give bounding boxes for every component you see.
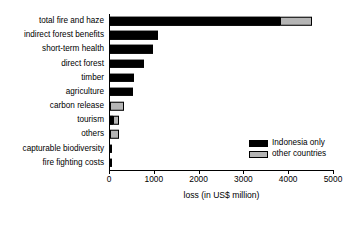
category-label: short-term health	[42, 45, 104, 53]
bar-group	[110, 144, 112, 153]
chart-row: indirect forest benefits	[0, 28, 361, 42]
category-label: capturable biodiversity	[23, 145, 104, 153]
bar-segment	[110, 102, 124, 111]
bar-segment	[110, 17, 280, 26]
chart-row: direct forest	[0, 57, 361, 71]
bar-group	[110, 17, 312, 26]
chart-row: short-term health	[0, 42, 361, 56]
x-tick-label: 4000	[279, 175, 298, 183]
legend-swatch-black	[249, 140, 268, 147]
legend-swatch-gray	[249, 151, 268, 158]
bar-segment	[110, 45, 153, 54]
bar-group	[110, 130, 119, 139]
bar-segment	[110, 31, 158, 40]
chart-row: tourism	[0, 113, 361, 127]
x-tick-label: 5000	[324, 175, 343, 183]
bar-segment	[110, 144, 112, 153]
x-tick-label: 3000	[234, 175, 253, 183]
legend-label: Indonesia only	[272, 139, 325, 147]
category-label: direct forest	[61, 59, 104, 67]
chart-row: timber	[0, 71, 361, 85]
bar-group	[110, 31, 158, 40]
bar-segment	[110, 88, 133, 97]
chart-row: total fire and haze	[0, 14, 361, 28]
bar-group	[110, 45, 153, 54]
bar-segment	[110, 130, 119, 139]
legend-label: other countries	[272, 150, 326, 158]
x-tick-label: 2000	[189, 175, 208, 183]
legend-item: other countries	[249, 150, 326, 159]
bar-segment	[110, 59, 144, 68]
x-axis-ticks: 010002000300040005000	[0, 170, 361, 192]
x-tick-label: 0	[107, 175, 112, 183]
bar-group	[110, 59, 144, 68]
bar-segment	[110, 159, 112, 168]
chart-row: carbon release	[0, 99, 361, 113]
chart-legend: Indonesia onlyother countries	[249, 139, 326, 161]
category-label: total fire and haze	[39, 17, 104, 25]
category-label: timber	[81, 74, 104, 82]
category-label: indirect forest benefits	[24, 31, 104, 39]
category-label: tourism	[77, 116, 104, 124]
x-tick-label: 1000	[144, 175, 163, 183]
category-label: fire fighting costs	[43, 159, 104, 167]
bar-group	[110, 102, 124, 111]
bar-group	[110, 74, 134, 83]
bar-group	[110, 116, 119, 125]
x-axis-title: loss (in US$ million)	[109, 191, 334, 200]
category-label: agriculture	[66, 88, 104, 96]
category-label: carbon release	[50, 102, 104, 110]
bar-chart-figure: total fire and hazeindirect forest benef…	[0, 0, 361, 225]
bar-segment	[280, 17, 311, 26]
chart-row: agriculture	[0, 85, 361, 99]
bar-group	[110, 159, 112, 168]
bar-group	[110, 88, 133, 97]
bar-segment	[113, 116, 118, 125]
bar-segment	[110, 74, 134, 83]
category-label: others	[81, 130, 104, 138]
legend-item: Indonesia only	[249, 139, 326, 148]
